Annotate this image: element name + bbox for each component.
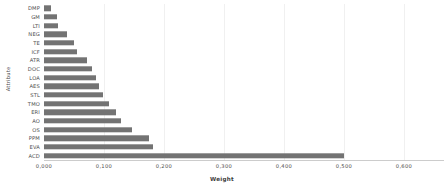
y-axis-tick-label: OS [32, 127, 40, 133]
bar [44, 58, 87, 63]
y-axis-tick-label: TMO [28, 101, 40, 107]
y-axis-tick-label: TE [33, 40, 40, 46]
bar [44, 127, 132, 132]
y-axis-tick-label: DOC [28, 66, 40, 72]
x-axis-title: Weight [0, 176, 444, 182]
y-axis-tick-label: ATR [30, 57, 40, 63]
y-axis-tick-label: EVA [30, 144, 41, 150]
bar-row: OS [44, 125, 404, 134]
bar-row: LTI [44, 21, 404, 30]
y-axis-tick-label: LOA [29, 75, 40, 81]
bar-row: LOA [44, 73, 404, 82]
bar [44, 40, 74, 45]
y-axis-tick-label: AES [29, 83, 40, 89]
bar-row: AO [44, 117, 404, 126]
bar [44, 84, 99, 89]
x-axis-tick-label: 0,000 [36, 163, 52, 169]
bar [44, 49, 77, 54]
bar [44, 118, 121, 123]
bar [44, 14, 57, 19]
bar-row: AES [44, 82, 404, 91]
bar-chart: Attribute DMPGMLTINEGTEICFATRDOCLOAAESST… [0, 0, 444, 194]
y-axis-tick-label: ERI [31, 109, 40, 115]
bar-rows: DMPGMLTINEGTEICFATRDOCLOAAESSTLTMOERIAOO… [44, 4, 404, 160]
bar-row: STL [44, 91, 404, 100]
y-axis-tick-label: STL [30, 92, 40, 98]
bar [44, 144, 153, 149]
bar-row: DMP [44, 4, 404, 13]
bar [44, 75, 96, 80]
y-axis-tick-label: GM [31, 14, 40, 20]
bar-row: ATR [44, 56, 404, 65]
y-axis-tick-label: ACD [28, 153, 40, 159]
plot-area: DMPGMLTINEGTEICFATRDOCLOAAESSTLTMOERIAOO… [44, 4, 404, 160]
gridline [404, 4, 405, 160]
y-axis-title: Attribute [5, 49, 11, 109]
bar-row: TE [44, 39, 404, 48]
y-axis-tick-label: ICF [31, 49, 40, 55]
bar-row: ICF [44, 47, 404, 56]
bar-row: TMO [44, 99, 404, 108]
bar [44, 92, 103, 97]
y-axis-tick-label: LTI [33, 23, 40, 29]
bar [44, 6, 51, 11]
x-axis-tick-label: 0,400 [276, 163, 292, 169]
bar-row: EVA [44, 143, 404, 152]
y-axis-tick-label: DMP [28, 5, 40, 11]
x-axis-tick-labels: 0,0000,1000,2000,3000,4000,5000,600 [0, 163, 444, 175]
y-axis-tick-label: NEG [28, 31, 40, 37]
bar [44, 23, 58, 28]
x-axis-tick-label: 0,500 [336, 163, 352, 169]
bar [44, 153, 344, 158]
bar [44, 32, 67, 37]
bar [44, 110, 116, 115]
y-axis-tick-label: AO [32, 118, 40, 124]
bar [44, 101, 109, 106]
bar-row: ERI [44, 108, 404, 117]
x-axis-line [44, 160, 444, 161]
x-axis-tick-label: 0,300 [216, 163, 232, 169]
bar-row: PPM [44, 134, 404, 143]
bar [44, 136, 149, 141]
x-axis-tick-label: 0,200 [156, 163, 172, 169]
bar-row: DOC [44, 65, 404, 74]
bar-row: GM [44, 13, 404, 22]
y-axis-tick-label: PPM [29, 135, 40, 141]
x-axis-tick-label: 0,100 [96, 163, 112, 169]
bar-row: NEG [44, 30, 404, 39]
bar-row: ACD [44, 151, 404, 160]
bar [44, 66, 92, 71]
x-axis-tick-label: 0,600 [396, 163, 412, 169]
